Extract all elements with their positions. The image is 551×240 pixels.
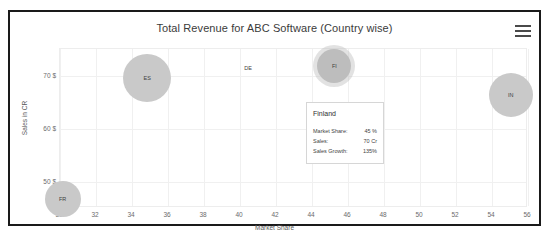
x-axis-tick-label: 44: [307, 211, 314, 218]
x-axis-tick-label: 48: [379, 211, 386, 218]
x-axis-tick-label: 42: [271, 211, 278, 218]
x-axis-tick-label: 46: [343, 211, 350, 218]
x-axis-tick-label: 56: [523, 211, 530, 218]
chart-title: Total Revenue for ABC Software (Country …: [10, 22, 539, 34]
x-axis-tick-label: 38: [199, 211, 206, 218]
bubble-label: IN: [508, 92, 514, 98]
gridline-vertical: [528, 49, 529, 206]
bubble-in[interactable]: IN: [489, 73, 533, 117]
tooltip-row-value: 45 %: [364, 126, 377, 136]
menu-line-1: [515, 25, 531, 27]
menu-line-3: [515, 35, 531, 37]
tooltip-finland: Finland Market Share:45 %Sales:70 CrSale…: [306, 102, 384, 164]
tooltip-row-key: Sales Growth:: [313, 146, 348, 156]
tooltip-row: Sales:70 Cr: [313, 136, 377, 146]
y-axis-tick-label: 70 $: [36, 71, 56, 78]
data-point-de[interactable]: DE: [244, 65, 252, 71]
chart-card: Total Revenue for ABC Software (Country …: [8, 10, 541, 226]
bubble-fi[interactable]: FI: [317, 49, 351, 83]
tooltip-row-key: Market Share:: [313, 126, 348, 136]
tooltip-row-value: 135%: [363, 146, 377, 156]
x-axis-title: Market Share: [10, 224, 539, 231]
y-axis-title: Sales in CR: [21, 88, 28, 148]
tooltip-row: Sales Growth:135%: [313, 146, 377, 156]
x-axis-tick-label: 52: [451, 211, 458, 218]
gridline-horizontal: [60, 129, 526, 130]
bubble-label: FR: [59, 196, 66, 202]
bubble-es[interactable]: ES: [123, 54, 171, 102]
tooltip-row-value: 70 Cr: [364, 136, 377, 146]
tooltip-row-key: Sales:: [313, 136, 328, 146]
x-axis-tick-label: 32: [91, 211, 98, 218]
bubble-label: ES: [144, 75, 151, 81]
x-axis-tick-label: 34: [127, 211, 134, 218]
bubble-fr[interactable]: FR: [45, 181, 81, 217]
y-axis-tick-label: 60 $: [36, 124, 56, 131]
tooltip-rows: Market Share:45 %Sales:70 CrSales Growth…: [313, 126, 377, 157]
x-axis-tick-label: 50: [415, 211, 422, 218]
tooltip-title: Finland: [313, 110, 377, 117]
gridline-horizontal: [60, 182, 526, 183]
x-axis-tick-label: 54: [487, 211, 494, 218]
x-axis-tick-label: 36: [163, 211, 170, 218]
x-axis-tick-label: 40: [235, 211, 242, 218]
tooltip-row: Market Share:45 %: [313, 126, 377, 136]
menu-line-2: [515, 30, 531, 32]
bubble-label: FI: [332, 63, 337, 69]
hamburger-menu-icon[interactable]: [515, 24, 531, 38]
